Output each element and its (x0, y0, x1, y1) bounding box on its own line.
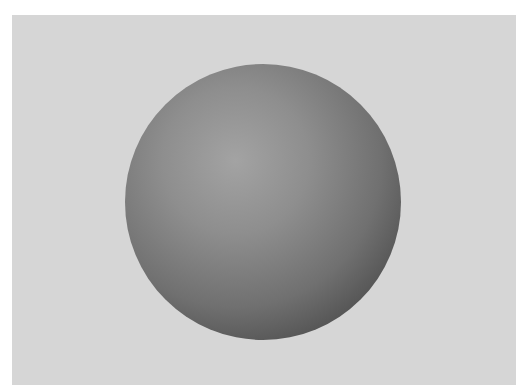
background-panel (12, 15, 516, 385)
shaded-sphere (125, 64, 401, 340)
